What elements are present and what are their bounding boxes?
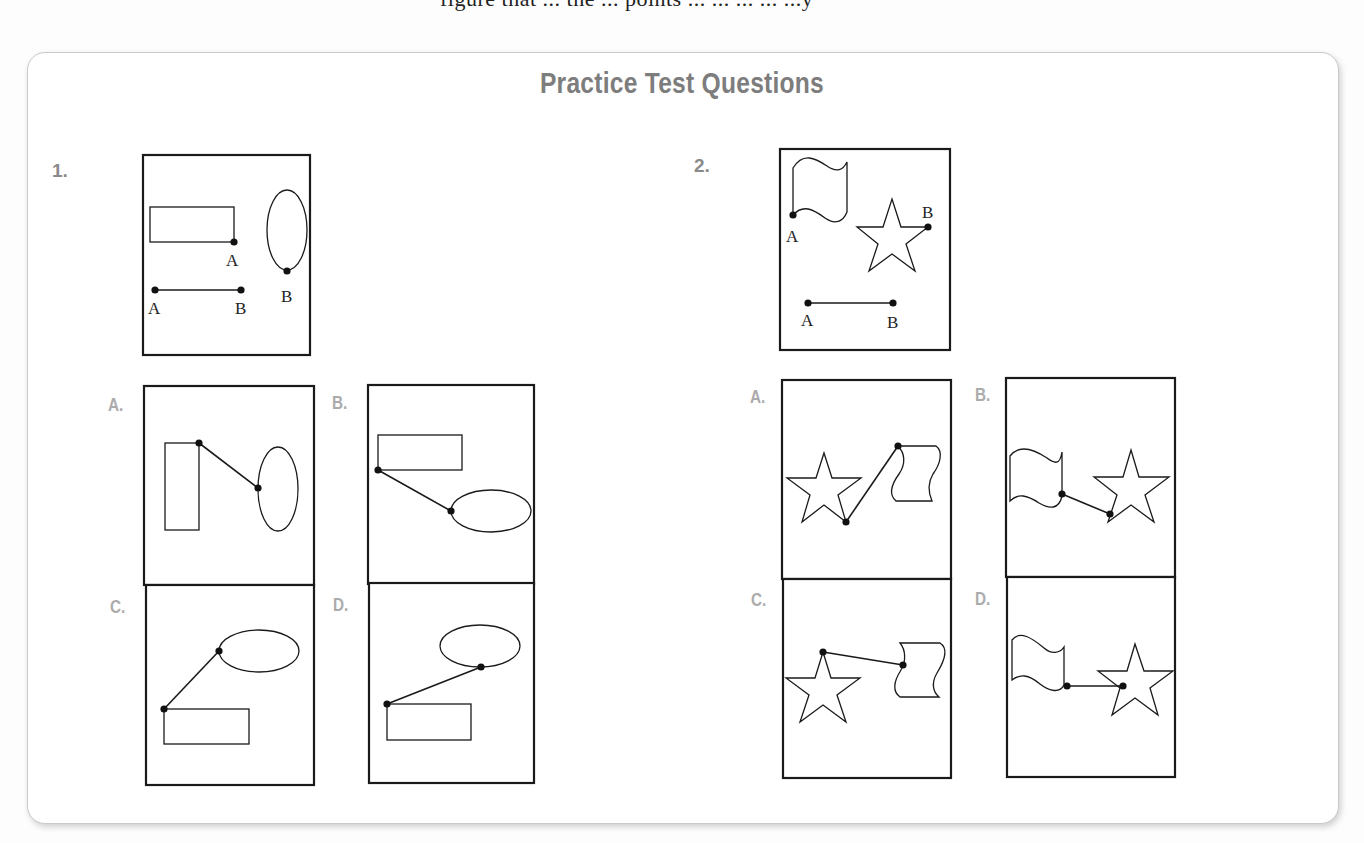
q2-option-c-label[interactable]: C. (751, 590, 766, 611)
q1-seg-end-label: B (235, 299, 246, 318)
q2-option-d[interactable] (1006, 576, 1176, 778)
page-title: Practice Test Questions (123, 66, 1241, 100)
q1-option-d[interactable] (368, 582, 535, 784)
q2-flag-point-label: A (786, 227, 799, 246)
q1-ellipse-point-label: B (281, 287, 292, 306)
q2-option-b-label[interactable]: B. (975, 385, 990, 406)
page-fragment-top: figure that ... the ... points ... ... .… (440, 0, 813, 12)
q1-option-a[interactable] (143, 385, 315, 585)
question-2-number: 2. (694, 155, 710, 177)
q1-option-a-label[interactable]: A. (108, 395, 123, 416)
question-1-number: 1. (52, 160, 68, 182)
q2-seg-start-label: A (801, 311, 814, 330)
q1-seg-start-label: A (148, 299, 161, 318)
q2-option-d-label[interactable]: D. (975, 589, 990, 610)
q1-option-c-label[interactable]: C. (110, 597, 125, 618)
q1-option-b[interactable] (367, 384, 535, 584)
q2-option-a-label[interactable]: A. (750, 387, 765, 408)
q1-option-b-label[interactable]: B. (332, 393, 347, 414)
question-2-figure: A B A B (779, 148, 951, 351)
q2-seg-end-label: B (887, 313, 898, 332)
q2-star-point-label: B (922, 203, 933, 222)
q2-option-a[interactable] (781, 379, 952, 580)
question-1-figure: A B A B (142, 154, 312, 357)
q1-option-c[interactable] (145, 584, 315, 786)
q2-option-c[interactable] (782, 578, 952, 779)
q2-option-b[interactable] (1005, 377, 1176, 578)
q1-option-d-label[interactable]: D. (333, 595, 348, 616)
q1-rect-point-label: A (226, 251, 239, 270)
